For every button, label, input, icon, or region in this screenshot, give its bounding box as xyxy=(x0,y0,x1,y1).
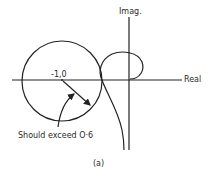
annotation-leader xyxy=(58,94,74,127)
margin-annotation: Should exceed O·6 xyxy=(18,131,93,140)
nyquist-curve xyxy=(100,52,143,150)
figure-caption: (a) xyxy=(93,159,104,168)
critical-point-label: -1,0 xyxy=(51,70,67,79)
critical-point-marker xyxy=(61,79,63,81)
nyquist-diagram: Imag. Real -1,0 Should exceed O·6 (a) xyxy=(0,0,211,180)
real-axis-label: Real xyxy=(184,75,201,84)
imag-axis-label: Imag. xyxy=(119,7,142,16)
